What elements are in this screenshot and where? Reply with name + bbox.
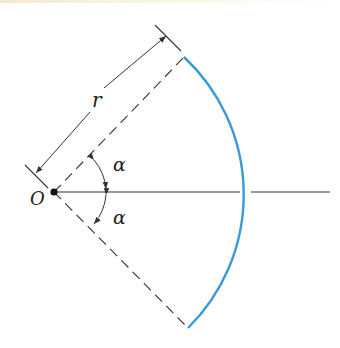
- radius-label: r: [92, 88, 103, 112]
- arc-diagram: r O α α: [0, 0, 340, 348]
- upper-angle-arc: [94, 160, 106, 189]
- dimension-line-lower: [36, 112, 90, 173]
- lower-angle-label: α: [113, 206, 126, 228]
- dimension-line-upper: [104, 36, 166, 88]
- origin-label: O: [30, 188, 45, 209]
- dimension-tick-bottom: [25, 165, 48, 188]
- dimension-tick-top: [155, 25, 181, 51]
- origin-point: [50, 188, 57, 195]
- upper-angle-label: α: [113, 153, 126, 175]
- lower-angle-arc: [94, 195, 106, 224]
